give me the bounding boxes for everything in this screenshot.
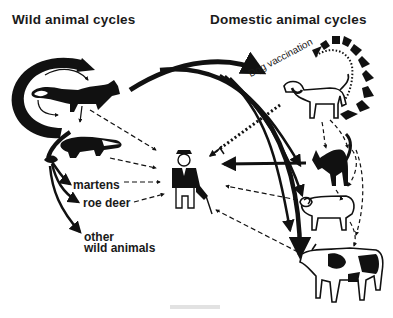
roe-deer-label: roe deer <box>83 197 130 209</box>
domestic-cycle-arrow-icon <box>312 36 374 120</box>
human-icon <box>172 150 212 214</box>
other-wild-animals-label-line2: wild animals <box>84 242 155 254</box>
sheep-icon <box>300 196 354 230</box>
faded-caption <box>170 305 220 309</box>
wild-branch-arrows-icon <box>44 106 82 232</box>
cat-icon <box>312 134 351 186</box>
rabies-transmission-diagram: Wild animal cycles Domestic animal cycle… <box>0 0 393 318</box>
fox-icon <box>31 80 120 112</box>
dog-icon <box>284 74 349 118</box>
diagram-artwork <box>0 0 393 318</box>
cow-icon <box>298 244 383 302</box>
badger-icon <box>60 137 121 158</box>
wild-to-domestic-arcs <box>130 62 302 255</box>
martens-label: martens <box>73 179 120 191</box>
vaccination-barrier-icon <box>210 105 280 156</box>
